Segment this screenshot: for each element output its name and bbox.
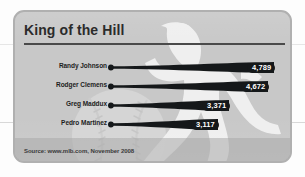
infographic-card: King of the Hill Randy Johnson4,789Rodge…	[13, 10, 292, 163]
bar-category-label: Pedro Martinez	[13, 119, 107, 126]
bar-value-label: 3,371	[202, 101, 230, 112]
bar-row: Rodger Clemens4,672	[15, 79, 292, 94]
bar-value-label: 4,789	[247, 63, 275, 74]
title-underline	[24, 43, 285, 45]
bar-category-label: Rodger Clemens	[13, 81, 107, 88]
bar-chart: Randy Johnson4,789Rodger Clemens4,672Gre…	[15, 60, 292, 134]
bar-category-label: Greg Maddux	[13, 100, 107, 107]
bar-category-label: Randy Johnson	[13, 62, 107, 69]
card-title: King of the Hill	[24, 22, 124, 38]
bar-row: Randy Johnson4,789	[15, 60, 292, 75]
bar-row: Greg Maddux3,371	[15, 98, 292, 113]
bar-value-label: 4,672	[241, 82, 269, 93]
bar-value-label: 3,117	[191, 120, 219, 131]
source-note: Source: www.mlb.com, November 2008	[24, 148, 134, 154]
page-canvas: King of the Hill Randy Johnson4,789Rodge…	[0, 0, 305, 177]
bar-row: Pedro Martinez3,117	[15, 117, 292, 132]
